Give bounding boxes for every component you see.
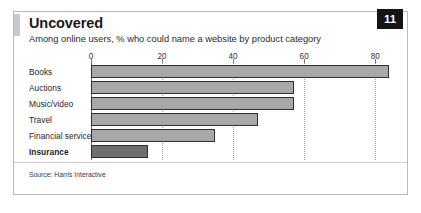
title-accent-bar (14, 14, 20, 36)
slide-header: Uncovered Among online users, % who coul… (14, 12, 407, 56)
bar-row: Travel (14, 112, 409, 128)
slide-footer: Source: Harris Interactive (14, 162, 407, 194)
slide-frame: Uncovered Among online users, % who coul… (13, 11, 408, 195)
bar-row: Books (14, 64, 409, 80)
bar-row: Financial services (14, 128, 409, 144)
chart-plot-area: 020406080 BooksAuctionsMusic/videoTravel… (14, 52, 409, 160)
bar-row: Auctions (14, 80, 409, 96)
bar (91, 145, 148, 158)
bar-category-label: Auctions (14, 83, 91, 93)
bar-row: Insurance (14, 144, 409, 160)
bar-category-label: Books (14, 67, 91, 77)
bar (91, 129, 215, 142)
bar-category-label: Insurance (14, 147, 91, 157)
bar (91, 65, 389, 78)
page-number-badge: 11 (377, 9, 403, 29)
bar-series: BooksAuctionsMusic/videoTravelFinancial … (14, 63, 409, 160)
bar (91, 81, 294, 94)
bar (91, 97, 294, 110)
bar-category-label: Financial services (14, 131, 91, 141)
bar-row: Music/video (14, 96, 409, 112)
bar (91, 113, 258, 126)
bar-category-label: Music/video (14, 99, 91, 109)
source-note: Source: Harris Interactive (29, 171, 106, 178)
page-title: Uncovered (29, 15, 103, 31)
bar-category-label: Travel (14, 115, 91, 125)
x-axis-tick-labels: 020406080 (14, 52, 409, 63)
footer-divider (14, 162, 407, 163)
chart-subtitle: Among online users, % who could name a w… (29, 34, 321, 44)
